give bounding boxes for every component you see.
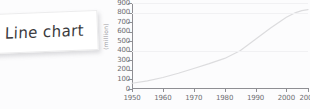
y-tick-mark [128,79,132,80]
series-polyline [132,10,308,84]
x-tick-label: 1970 [185,94,202,102]
y-tick-mark [128,41,132,42]
y-tick-mark [128,13,132,14]
x-tick-mark [194,89,195,92]
x-tick-label: 1960 [154,94,171,102]
x-tick-label: 2007 [299,94,310,102]
y-tick-mark [128,70,132,71]
line-chart: (million) 9008007006005004003002001000 1… [96,0,310,109]
gridline [132,51,308,52]
x-tick-mark [286,89,287,92]
gridline [132,13,308,14]
x-tick-label: 1990 [247,94,264,102]
y-axis-tick-labels: 9008007006005004003002001000 [106,0,130,92]
line-chart-note-card: Line chart [0,10,99,54]
x-tick-mark [225,89,226,92]
x-tick-label: 1980 [216,94,233,102]
note-label: Line chart [5,21,85,43]
y-tick-mark [128,32,132,33]
series-line [132,3,308,89]
x-tick-mark [256,89,257,92]
x-tick-label: 1950 [123,94,140,102]
x-tick-mark [163,89,164,92]
gridline [132,3,308,4]
x-tick-mark [132,89,133,92]
y-tick-mark [128,3,132,4]
plot-area [132,3,308,89]
x-tick-label: 2000 [278,94,295,102]
x-tick-mark [308,89,309,92]
y-tick-mark [128,51,132,52]
y-tick-mark [128,22,132,23]
y-tick-mark [128,60,132,61]
